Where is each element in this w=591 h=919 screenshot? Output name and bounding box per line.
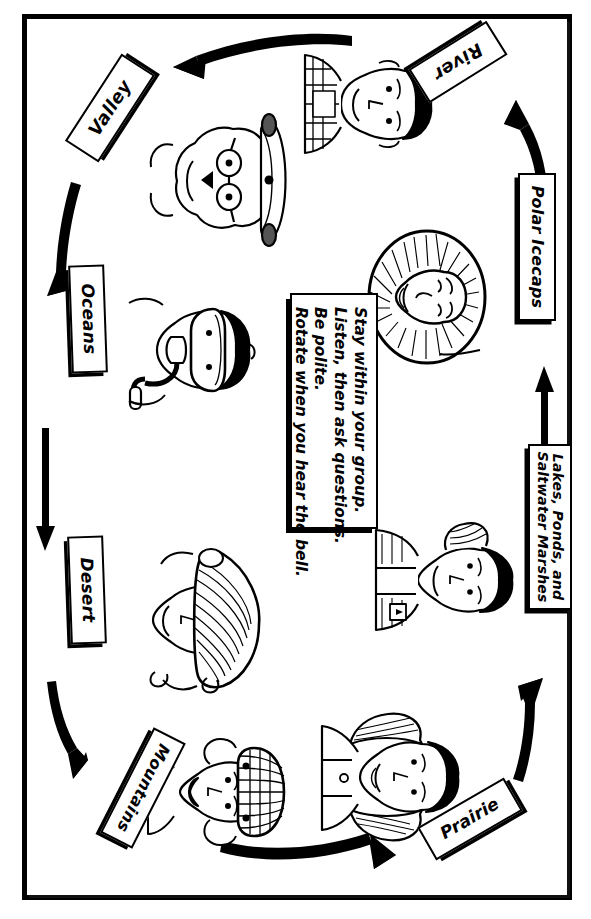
figure-valley — [144, 108, 294, 253]
station-card-lakes[interactable]: Lakes, Ponds, and Saltwater Marshes — [528, 444, 572, 610]
station-label-polar-icecaps: Polar Icecaps — [529, 186, 546, 309]
station-card-desert[interactable]: Desert — [67, 535, 107, 644]
rule-line-4: Rotate when you hear the bell. — [290, 307, 310, 517]
figure-desert — [108, 545, 268, 695]
station-label-lakes: Lakes, Ponds, and Saltwater Marshes — [535, 451, 564, 602]
station-card-polar-icecaps[interactable]: Polar Icecaps — [518, 173, 556, 321]
figure-oceans — [112, 280, 262, 420]
station-label-oceans: Oceans — [78, 283, 98, 355]
station-label-desert: Desert — [77, 557, 97, 623]
rule-line-1: Stay within your group. — [349, 307, 369, 517]
rules-note: Stay within your group. Listen, then ask… — [290, 293, 378, 529]
figure-river — [286, 30, 436, 178]
rule-line-3: Be polite. — [310, 307, 330, 517]
poster-canvas: .ar{fill:#000;stroke:none;} — [0, 0, 591, 919]
rule-line-2: Listen, then ask questions. — [329, 307, 349, 517]
station-card-oceans[interactable]: Oceans — [68, 264, 108, 373]
figure-lakes — [372, 500, 512, 660]
